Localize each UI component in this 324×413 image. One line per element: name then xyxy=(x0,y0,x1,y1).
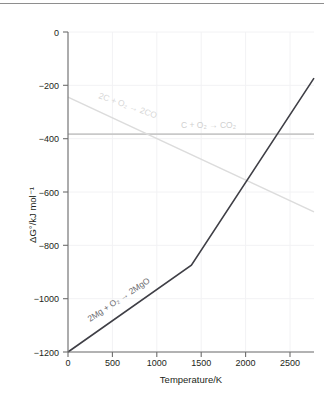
y-tick-label: −800 xyxy=(39,241,59,251)
x-tick-label: 500 xyxy=(105,358,120,368)
chart-svg: .gx,.gy{stroke:#f2f2f4;stroke-width:1;} xyxy=(0,0,324,413)
x-tick-label: 2000 xyxy=(236,358,256,368)
y-tick-label: −400 xyxy=(39,134,59,144)
ellingham-diagram: .gx,.gy{stroke:#f2f2f4;stroke-width:1;} xyxy=(0,0,324,413)
y-axis-title: ΔG°/kJ mol⁻¹ xyxy=(27,187,38,243)
x-axis-title: Temperature/K xyxy=(160,374,223,385)
x-tick-label: 2500 xyxy=(280,358,300,368)
y-axis xyxy=(63,32,68,352)
x-tick-labels: 0 500 1000 1500 2000 2500 xyxy=(65,358,300,368)
y-tick-label: −600 xyxy=(39,188,59,198)
y-tick-label: −1200 xyxy=(34,348,59,358)
y-tick-label: −1000 xyxy=(34,294,59,304)
series-label-co2: C + O₂ → CO₂ xyxy=(181,120,236,130)
x-tick-label: 1000 xyxy=(147,358,167,368)
y-tick-label: −200 xyxy=(39,81,59,91)
x-tick-label: 1500 xyxy=(191,358,211,368)
x-axis xyxy=(68,352,314,357)
x-tick-label: 0 xyxy=(65,358,70,368)
series-co-line xyxy=(68,97,314,212)
y-tick-label: 0 xyxy=(54,28,59,38)
